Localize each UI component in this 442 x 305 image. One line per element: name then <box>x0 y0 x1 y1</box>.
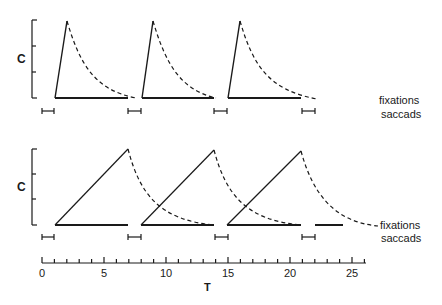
x-tick-label: 0 <box>39 267 45 279</box>
bottom-fixations-label: fixations <box>380 219 420 232</box>
top-y-axis <box>32 20 37 98</box>
fixation-saccade-diagram <box>0 0 442 305</box>
bottom-y-axis <box>32 149 37 225</box>
x-tick-label: 25 <box>346 267 358 279</box>
x-tick-label: 15 <box>222 267 234 279</box>
top-fixations-label: fixations <box>379 94 419 107</box>
bottom-rise-lines <box>55 149 301 225</box>
x-axis-label: T <box>204 281 211 293</box>
top-rise-lines <box>55 21 240 98</box>
x-tick-label: 10 <box>160 267 172 279</box>
bottom-saccades-label: saccads <box>381 232 421 245</box>
bottom-y-axis-label: C <box>17 180 26 194</box>
x-tick-label: 20 <box>284 267 296 279</box>
top-y-axis-label: C <box>17 52 26 66</box>
bottom-decay-curves <box>128 149 378 226</box>
top-saccades-label: saccads <box>381 108 421 121</box>
top-saccade-markers <box>42 108 315 114</box>
x-axis <box>42 257 366 263</box>
x-tick-label: 5 <box>101 267 107 279</box>
bottom-saccade-markers <box>42 234 315 240</box>
top-decay-curves <box>67 21 317 99</box>
